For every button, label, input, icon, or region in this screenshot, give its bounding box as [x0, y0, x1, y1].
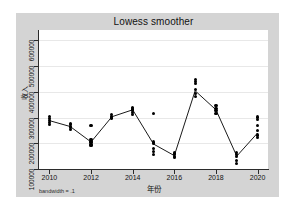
scatter-point	[194, 82, 197, 85]
x-tick-label: 2012	[83, 174, 99, 181]
y-tick-label: 400000	[29, 91, 36, 113]
chart-page: Lowess smoother 100000200000300000400000…	[0, 0, 295, 215]
scatter-point	[89, 124, 92, 127]
scatter-point	[256, 118, 259, 121]
y-tick-label: 300000	[29, 117, 36, 139]
chart-title: Lowess smoother	[39, 16, 268, 27]
scatter-point	[173, 156, 176, 159]
x-tick-label: 2020	[250, 174, 266, 181]
x-axis-line	[38, 169, 269, 170]
plot-area	[39, 30, 268, 169]
x-tick-label: 2016	[167, 174, 183, 181]
scatter-point	[214, 112, 217, 115]
y-tick-label: 200000	[29, 143, 36, 165]
scatter-point	[256, 136, 259, 139]
y-tick-label: 100000	[29, 169, 36, 191]
y-axis-title: 收入	[19, 86, 29, 100]
y-tick-label: 600000	[29, 40, 36, 62]
scatter-point	[152, 112, 155, 115]
x-tick-label: 2010	[42, 174, 58, 181]
scatter-point	[194, 88, 197, 91]
y-axis-line	[38, 30, 39, 170]
y-tick-label: 500000	[29, 66, 36, 88]
scatter-point	[194, 95, 197, 98]
x-tick-label: 2018	[208, 174, 224, 181]
scatter-point	[69, 128, 72, 131]
bandwidth-note: bandwidth = .1	[39, 188, 75, 194]
x-tick-label: 2014	[125, 174, 141, 181]
